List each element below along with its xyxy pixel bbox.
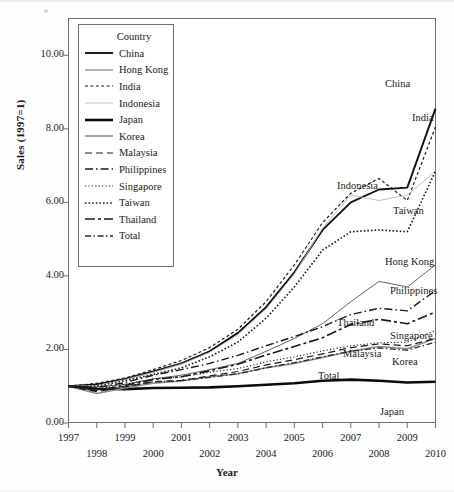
legend-swatch-icon <box>84 164 114 174</box>
legend-item-label: India <box>119 81 141 92</box>
series-label-indonesia: Indonesia <box>337 180 378 191</box>
x-axis-label: Year <box>0 466 454 478</box>
x-tick-label: 2002 <box>188 448 232 459</box>
legend-swatch-icon <box>84 65 114 75</box>
x-tick-label: 2009 <box>385 432 429 443</box>
legend-item-indonesia[interactable]: Indonesia <box>79 95 173 112</box>
legend-item-thailand[interactable]: Thailand <box>79 211 173 228</box>
legend-swatch-icon <box>84 115 114 125</box>
legend-swatch-icon <box>84 231 114 241</box>
legend-item-label: Total <box>119 230 140 241</box>
y-axis-label: Sales (1997=1) <box>14 100 26 170</box>
legend-title: Country <box>95 31 173 42</box>
x-tick-label: 2000 <box>131 448 175 459</box>
x-tick-label: 2005 <box>272 432 316 443</box>
legend-item-hong-kong[interactable]: Hong Kong <box>79 62 173 79</box>
x-tick-label: 1998 <box>75 448 119 459</box>
legend-item-china[interactable]: China <box>79 45 173 62</box>
legend-swatch-icon <box>84 181 114 191</box>
legend-item-label: China <box>119 48 144 59</box>
series-label-taiwan: Taiwan <box>393 205 424 216</box>
legend-item-korea[interactable]: Korea <box>79 128 173 145</box>
legend-item-label: Singapore <box>119 181 162 192</box>
x-tick-label: 1997 <box>47 432 91 443</box>
legend-item-label: Philippines <box>119 164 166 175</box>
legend-item-label: Taiwan <box>119 197 150 208</box>
x-tick-label: 2007 <box>329 432 373 443</box>
legend-item-label: Thailand <box>119 214 156 225</box>
series-label-korea: Korea <box>392 356 418 367</box>
legend-item-total[interactable]: Total <box>79 228 173 245</box>
x-tick-label: 2003 <box>216 432 260 443</box>
legend-item-label: Japan <box>119 114 143 125</box>
legend-item-india[interactable]: India <box>79 78 173 95</box>
series-label-hong-kong: Hong Kong <box>385 256 434 267</box>
chart-page: 0.002.004.006.008.0010.00 19971998199920… <box>0 0 454 492</box>
x-axis-ticks: 1997199819992000200120022003200420052006… <box>0 0 454 492</box>
series-label-thailand: Thailand <box>337 317 374 328</box>
legend-swatch-icon <box>84 48 114 58</box>
x-tick-label: 2010 <box>414 448 454 459</box>
x-tick-label: 2004 <box>244 448 288 459</box>
legend-swatch-icon <box>84 214 114 224</box>
legend-rows: ChinaHong KongIndiaIndonesiaJapanKoreaMa… <box>79 45 173 244</box>
legend-swatch-icon <box>84 131 114 141</box>
series-label-total: Total <box>318 370 339 381</box>
legend-item-philippines[interactable]: Philippines <box>79 161 173 178</box>
x-tick-label: 2008 <box>357 448 401 459</box>
legend-item-label: Korea <box>119 131 145 142</box>
series-label-malaysia: Malaysia <box>343 348 382 359</box>
legend-item-japan[interactable]: Japan <box>79 111 173 128</box>
x-tick-label: 2006 <box>301 448 345 459</box>
caption-ghost <box>0 484 454 492</box>
series-label-china: China <box>385 78 410 89</box>
legend-swatch-icon <box>84 148 114 158</box>
x-tick-label: 1999 <box>103 432 147 443</box>
series-label-philippines: Philippines <box>390 285 437 296</box>
series-label-india: India <box>412 112 434 123</box>
series-label-japan: Japan <box>380 406 404 417</box>
chart-legend: Country ChinaHong KongIndiaIndonesiaJapa… <box>78 24 174 267</box>
legend-item-label: Hong Kong <box>119 64 168 75</box>
legend-swatch-icon <box>84 81 114 91</box>
legend-item-singapore[interactable]: Singapore <box>79 178 173 195</box>
series-label-singapore: Singapore <box>390 330 433 341</box>
legend-item-label: Indonesia <box>119 98 160 109</box>
legend-swatch-icon <box>84 198 114 208</box>
legend-swatch-icon <box>84 98 114 108</box>
legend-item-taiwan[interactable]: Taiwan <box>79 194 173 211</box>
legend-item-malaysia[interactable]: Malaysia <box>79 145 173 162</box>
legend-item-label: Malaysia <box>119 147 158 158</box>
x-tick-label: 2001 <box>159 432 203 443</box>
